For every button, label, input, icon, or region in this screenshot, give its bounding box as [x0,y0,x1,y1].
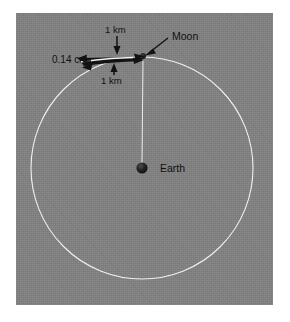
km-top-arrowhead [114,46,121,55]
earth-body [136,162,147,173]
diagram-vector-layer [0,0,290,322]
earth-moon-radius-line [142,60,143,163]
earth-label: Earth [160,163,185,174]
moon-label-arrowhead [145,49,156,56]
moon-label: Moon [172,31,198,42]
deviation-label: 0.14 cm [52,55,88,65]
km-top-label: 1 km [105,25,126,35]
km-bottom-arrowhead [111,63,118,72]
moon-orbit-figure: Earth Moon 0.14 cm 1 km 1 km [0,0,290,322]
km-bottom-label: 1 km [101,76,122,86]
